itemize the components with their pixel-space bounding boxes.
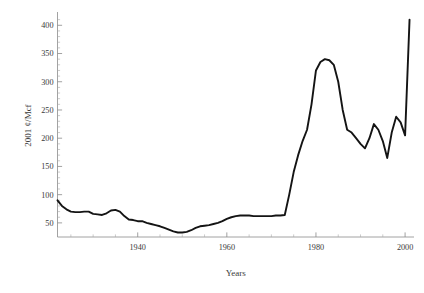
x-tick-label: 2000 [397, 243, 413, 252]
y-axis-major-ticks [58, 25, 63, 223]
y-tick-label: 300 [41, 78, 53, 87]
y-tick-label: 50 [45, 219, 53, 228]
line-chart: 50100150200250300350400 1940196019802000… [0, 0, 424, 293]
data-series-line [58, 20, 410, 233]
x-axis-title: Years [226, 268, 247, 278]
x-tick-label: 1940 [130, 243, 146, 252]
y-tick-label: 200 [41, 134, 53, 143]
chart-container: 50100150200250300350400 1940196019802000… [0, 0, 424, 293]
y-tick-label: 350 [41, 49, 53, 58]
y-tick-label: 400 [41, 21, 53, 30]
x-axis-tick-labels: 1940196019802000 [130, 243, 414, 252]
x-axis-group: 1940196019802000 [58, 232, 415, 251]
y-tick-label: 100 [41, 191, 53, 200]
x-tick-label: 1980 [308, 243, 324, 252]
x-tick-label: 1960 [219, 243, 235, 252]
plot-area [58, 20, 410, 233]
y-tick-label: 150 [41, 162, 53, 171]
y-axis-title: 2001 ¢/Mcf [23, 104, 33, 146]
y-tick-label: 250 [41, 106, 53, 115]
y-axis-tick-labels: 50100150200250300350400 [41, 21, 53, 228]
